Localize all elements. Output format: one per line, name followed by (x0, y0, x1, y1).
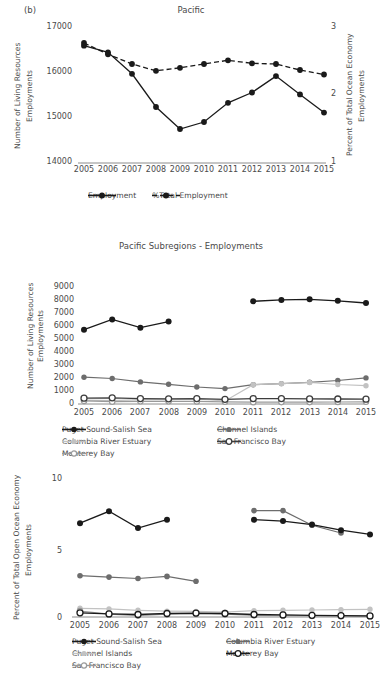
chart3-series-puget-sound-salish-sea (77, 508, 373, 537)
chart2-xtick-2012: 2012 (268, 408, 294, 417)
chart2-xtick-2014: 2014 (325, 408, 351, 417)
chart3-legend-item-puget-sound-salish-sea: Puget Sound-Salish Sea (72, 636, 226, 647)
legend-marker-mid-gray-open-icon (72, 661, 96, 670)
chart-pacific-subregions-employments: Pacific Subregions - Employments Number … (0, 238, 382, 460)
chart3-y-axis-title: Percent of Total Open Ocean Economy (12, 472, 22, 622)
chart1-y2-axis-title-2: Employments (357, 52, 367, 140)
chart-pacific-subregions-percent: Percent of Total Open Ocean Economy Empl… (0, 466, 382, 687)
legend-marker-mid-gray-open-icon (62, 449, 86, 458)
chart2-legend-item-puget-sound-salish-sea: Puget Sound-Salish Sea (62, 424, 217, 435)
chart3-xtick-2010: 2010 (212, 621, 238, 630)
chart3-legend-item-columbia-river-estuary: Columbia River Estuary (226, 636, 315, 647)
chart1-legend-item-pct-total-employment: %Total Employment (152, 190, 228, 201)
chart1-xtick-2014: 2014 (287, 165, 313, 174)
chart3-plot (72, 477, 372, 642)
legend-marker-black-filled-icon (72, 637, 96, 646)
chart2-ytick-8000: 8000 (34, 295, 74, 304)
chart1-y-axis-title: Number of Living Resources (13, 40, 23, 152)
chart3-y-axis-title-line1: Percent of Total Open Ocean Economy (12, 474, 21, 619)
chart1-xtick-2015: 2015 (311, 165, 337, 174)
chart1-xtick-2008: 2008 (143, 165, 169, 174)
chart1-legend: Employment %Total Employment (88, 190, 228, 201)
chart1-legend-item-employment: Employment (88, 190, 136, 201)
chart3-ytick-5: 5 (38, 546, 62, 555)
chart3-legend-item-san-francisco-bay: San Francisco Bay (72, 660, 141, 671)
chart2-legend-item-columbia-river-estuary: Columbia River Estuary (62, 436, 217, 447)
chart2-xtick-2015: 2015 (353, 408, 379, 417)
chart1-xtick-2007: 2007 (119, 165, 145, 174)
chart2-ytick-4000: 4000 (34, 347, 74, 356)
chart3-xtick-2014: 2014 (328, 621, 354, 630)
chart2-ytick-6000: 6000 (34, 321, 74, 330)
legend-marker-light-gray-filled-icon (72, 649, 96, 658)
chart1-xtick-2006: 2006 (95, 165, 121, 174)
chart2-series-puget-sound-salish-sea (81, 296, 369, 332)
chart1-title: Pacific (0, 5, 382, 15)
chart2-xtick-2009: 2009 (184, 408, 210, 417)
chart-pacific-living-resources: (b) Pacific Number of Living Resources E… (0, 0, 382, 215)
chart1-y-axis-title-2: Employments (25, 52, 35, 140)
chart2-series-channel-islands (81, 375, 368, 392)
chart1-plot (78, 23, 328, 183)
legend-marker-dark-gray-filled-icon (226, 637, 250, 646)
chart3-series-monterey-bay (77, 610, 373, 619)
chart3-legend: Puget Sound-Salish Sea Columbia River Es… (72, 636, 315, 671)
chart1-y2tick-3: 3 (331, 22, 336, 31)
legend-marker-dark-open-icon (217, 437, 241, 446)
chart3-xtick-2006: 2006 (96, 621, 122, 630)
chart1-xtick-2005: 2005 (71, 165, 97, 174)
chart2-xtick-2006: 2006 (99, 408, 125, 417)
chart1-y2-axis-title-line1: Percent of Total Ocean Economy (345, 34, 354, 157)
chart3-y-axis-title-2: Employments (24, 511, 34, 589)
chart2-legend-item-san-francisco-bay: San Francisco Bay (217, 436, 286, 447)
legend-line-solid-icon (88, 191, 116, 200)
chart3-legend-item-monterey-bay: Monterey Bay (226, 648, 279, 659)
chart1-y2tick-2: 2 (331, 89, 336, 98)
chart1-ytick-17000: 17000 (20, 22, 72, 31)
chart1-xtick-2010: 2010 (191, 165, 217, 174)
legend-marker-dark-gray-filled-icon (217, 425, 241, 434)
chart1-series-pct-total-employment (81, 40, 327, 77)
chart3-series-columbia-river-estuary (77, 508, 344, 584)
chart2-xtick-2005: 2005 (71, 408, 97, 417)
chart2-ytick-5000: 5000 (34, 334, 74, 343)
chart3-xtick-2013: 2013 (299, 621, 325, 630)
chart1-xtick-2012: 2012 (239, 165, 265, 174)
chart2-ytick-1000: 1000 (34, 386, 74, 395)
legend-marker-black-open-icon (226, 649, 250, 658)
chart2-xtick-2013: 2013 (297, 408, 323, 417)
chart3-xtick-2009: 2009 (183, 621, 209, 630)
chart2-legend-item-channel-islands: Channel Islands (217, 424, 277, 435)
chart1-xtick-2011: 2011 (215, 165, 241, 174)
chart3-xtick-2012: 2012 (270, 621, 296, 630)
chart2-xtick-2010: 2010 (212, 408, 238, 417)
chart3-xtick-2015: 2015 (357, 621, 382, 630)
chart2-ytick-2000: 2000 (34, 373, 74, 382)
chart2-ytick-9000: 9000 (34, 282, 74, 291)
chart1-xtick-2009: 2009 (167, 165, 193, 174)
chart3-xtick-2011: 2011 (241, 621, 267, 630)
chart3-ytick-10: 10 (38, 474, 62, 483)
chart2-xtick-2007: 2007 (127, 408, 153, 417)
chart3-xtick-2007: 2007 (125, 621, 151, 630)
chart3-legend-item-channel-islands: Channel Islands (72, 648, 226, 659)
chart2-ytick-7000: 7000 (34, 308, 74, 317)
chart3-ytick-0: 0 (38, 613, 62, 622)
chart1-ytick-15000: 15000 (20, 112, 72, 121)
chart1-y2-axis-title-line2: Employments (357, 70, 366, 122)
chart1-ytick-14000: 14000 (20, 157, 72, 166)
chart1-y-axis-title-line1: Number of Living Resources (13, 43, 22, 149)
chart2-legend: Puget Sound-Salish Sea Channel Islands C… (62, 424, 286, 459)
chart1-y2-axis-title: Percent of Total Ocean Economy (345, 30, 355, 160)
chart1-series-employment (81, 43, 327, 132)
chart2-ytick-3000: 3000 (34, 360, 74, 369)
legend-marker-black-filled-icon (62, 425, 86, 434)
chart2-legend-item-monterey-bay: Monterey Bay (62, 448, 115, 459)
chart1-ytick-16000: 16000 (20, 67, 72, 76)
legend-line-dashed-icon (152, 191, 180, 200)
chart2-xtick-2008: 2008 (156, 408, 182, 417)
chart3-xtick-2008: 2008 (154, 621, 180, 630)
chart1-xtick-2013: 2013 (263, 165, 289, 174)
chart2-ytick-0: 0 (34, 399, 74, 408)
chart3-y-axis-title-line2: Employments (24, 524, 33, 576)
